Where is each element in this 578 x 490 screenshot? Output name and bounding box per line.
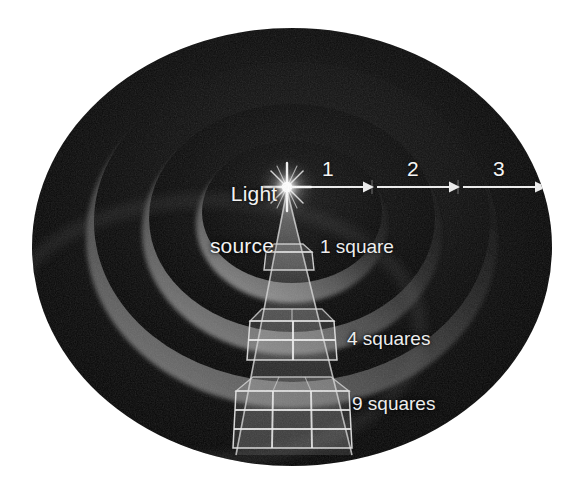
distance-tick-label-3: 3 [493, 157, 505, 181]
area-label-9-squares: 9 squares [352, 393, 435, 415]
distance-tick-label-1: 1 [322, 157, 334, 181]
figure-canvas: Light source 1 2 3 1 square 4 squares 9 … [0, 0, 578, 490]
area-label-4-squares: 4 squares [347, 328, 430, 350]
inverse-square-law-illustration [0, 0, 578, 490]
distance-tick-label-2: 2 [407, 157, 419, 181]
area-label-1-square: 1 square [320, 236, 394, 258]
film-grain [0, 0, 578, 490]
